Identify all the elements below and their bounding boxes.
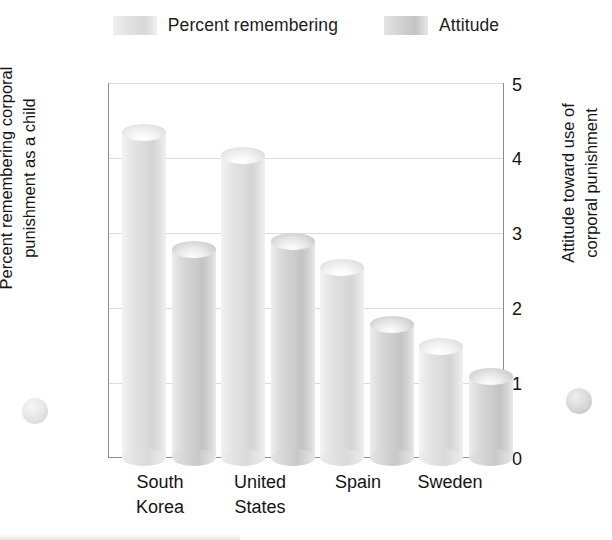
bar-sweden-attitude: [469, 368, 513, 458]
chart-figure: Percent remembering Attitude 100 80 60 4…: [0, 0, 612, 540]
bar-south-korea-percent-remembering: [122, 124, 166, 458]
y2-axis-title: Attitude toward use of corporal punishme…: [557, 33, 603, 333]
bar-base-ellipse: [419, 449, 463, 466]
legend-label-percent-remembering: Percent remembering: [168, 15, 338, 36]
bar-base-ellipse: [271, 449, 315, 466]
legend-item-percent-remembering: Percent remembering: [113, 15, 338, 36]
plot-area: [108, 83, 504, 458]
bar-base-ellipse: [221, 449, 265, 466]
percent-series-marker-icon: [22, 398, 48, 424]
bar-base-ellipse: [320, 449, 364, 466]
bar-body: [271, 241, 315, 458]
x-axis-category-labels: South Korea United States Spain Sweden: [108, 470, 504, 534]
category-label-south-korea: South Korea: [110, 470, 210, 520]
bar-spain-percent-remembering: [320, 259, 364, 458]
y2-axis-tick-3: 3: [512, 225, 552, 243]
y2-axis-tick-1: 1: [512, 375, 552, 393]
chart-legend: Percent remembering Attitude: [0, 8, 612, 42]
bar-body: [469, 376, 513, 458]
bar-base-ellipse: [469, 449, 513, 466]
bar-body: [221, 155, 265, 458]
gridline-100: [108, 83, 504, 84]
category-label-sweden: Sweden: [400, 470, 500, 495]
bar-south-korea-attitude: [172, 241, 216, 459]
bar-top-ellipse: [221, 147, 265, 164]
bar-body: [320, 267, 364, 458]
bar-body: [172, 249, 216, 459]
category-label-united-states: United States: [210, 470, 310, 520]
bar-base-ellipse: [370, 449, 414, 466]
bar-united-states-attitude: [271, 233, 315, 458]
legend-label-attitude: Attitude: [439, 15, 499, 36]
attitude-series-marker-icon: [566, 388, 592, 414]
category-label-spain: Spain: [308, 470, 408, 495]
bar-top-ellipse: [172, 241, 216, 258]
bar-top-ellipse: [370, 316, 414, 333]
bar-base-ellipse: [172, 449, 216, 466]
y2-axis-tick-2: 2: [512, 300, 552, 318]
bar-body: [122, 132, 166, 458]
bar-sweden-percent-remembering: [419, 338, 463, 458]
cropped-caption-edge: [0, 534, 240, 540]
percent-remembering-swatch-icon: [113, 16, 157, 35]
gridline-80: [108, 158, 504, 159]
bar-base-ellipse: [122, 449, 166, 466]
y-axis-line: [108, 83, 109, 458]
bar-body: [419, 346, 463, 458]
bar-top-ellipse: [469, 368, 513, 385]
bar-united-states-percent-remembering: [221, 147, 265, 458]
legend-item-attitude: Attitude: [384, 15, 499, 36]
y2-axis-tick-4: 4: [512, 150, 552, 168]
bar-top-ellipse: [271, 233, 315, 250]
y2-axis-tick-0: 0: [512, 450, 552, 468]
y-axis-title: Percent remembering corporal punishment …: [0, 28, 41, 328]
attitude-swatch-icon: [384, 16, 428, 35]
y2-axis-tick-5: 5: [512, 76, 552, 94]
bar-body: [370, 324, 414, 459]
bar-top-ellipse: [419, 338, 463, 355]
bar-spain-attitude: [370, 316, 414, 459]
